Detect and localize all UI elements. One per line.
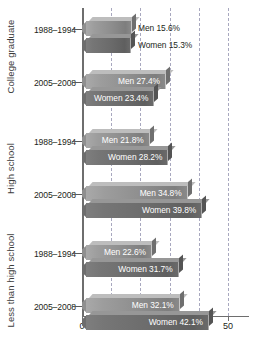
gridline-40 (199, 8, 200, 316)
period-label-college-2005-2008: 2005–2008 (6, 78, 76, 88)
period-label-lessthanhs-2005-2008: 2005–2008 (6, 302, 76, 312)
bar-side-face (188, 178, 192, 197)
bar-college-2005-women: Women 23.4% (86, 91, 154, 106)
bar-side-face (168, 142, 172, 161)
bar-highschool-2005-women: Women 39.8% (86, 203, 202, 218)
bar-value-college-1988-women: Women 15.3% (138, 38, 192, 53)
period-tick-4 (72, 194, 82, 195)
period-tick-5 (72, 253, 82, 254)
bar-chart: College graduate High school Less than h… (0, 0, 257, 354)
bar-value-lessthanhs-1988-women: Women 31.7% (118, 262, 172, 277)
bar-side-face (131, 30, 135, 49)
bar-front-face (86, 38, 131, 53)
bar-value-highschool-1988-women: Women 28.2% (108, 150, 162, 165)
bar-lessthanhs-2005-women: Women 42.1% (86, 315, 209, 330)
group-label-less-than-high-school: Less than high school (5, 231, 16, 331)
bar-value-college-1988-men: Men 15.6% (138, 21, 180, 36)
bar-side-face (152, 237, 156, 256)
xtick-label-50: 50 (216, 321, 240, 331)
bar-side-face (202, 195, 206, 214)
bar-side-face (209, 307, 213, 326)
bar-side-face (150, 125, 154, 144)
bar-side-face (154, 83, 158, 102)
period-label-highschool-1988-1994: 1988–1994 (6, 137, 76, 147)
bar-college-1988-women (86, 38, 131, 53)
bar-value-highschool-2005-women: Women 39.8% (142, 203, 196, 218)
period-label-highschool-2005-2008: 2005–2008 (6, 190, 76, 200)
plot-area: 0 10 20 30 40 50 Men 15.6% Women 15.3% M… (82, 8, 257, 327)
period-tick-6 (72, 306, 82, 307)
period-label-college-1988-1994: 1988–1994 (6, 25, 76, 35)
bar-side-face (179, 254, 183, 273)
period-tick-2 (72, 82, 82, 83)
gridline-50 (228, 8, 229, 316)
period-label-lessthanhs-1988-1994: 1988–1994 (6, 249, 76, 259)
bar-side-face (180, 290, 184, 309)
bar-value-college-2005-women: Women 23.4% (94, 91, 148, 106)
period-tick-3 (72, 141, 82, 142)
bar-highschool-1988-women: Women 28.2% (86, 150, 168, 165)
period-tick-1 (72, 29, 82, 30)
bar-lessthanhs-1988-women: Women 31.7% (86, 262, 179, 277)
bar-value-lessthanhs-2005-women: Women 42.1% (149, 315, 203, 330)
